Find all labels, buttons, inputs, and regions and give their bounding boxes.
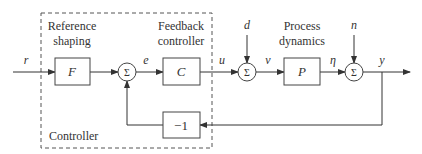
block-c-label: C <box>177 64 186 79</box>
controller-label: Controller <box>49 129 98 143</box>
reference-shaping-title-2: shaping <box>53 34 90 48</box>
signal-y-label: y <box>378 53 385 67</box>
sum-symbol-2: Σ <box>244 67 250 78</box>
signal-e-label: e <box>143 53 149 67</box>
reference-shaping-title-1: Reference <box>48 19 97 33</box>
block-p-label: P <box>297 64 306 79</box>
signal-v-label: ν <box>265 53 271 67</box>
feedback-return-line <box>127 81 163 125</box>
signal-u-label: u <box>219 53 225 67</box>
block-f-label: F <box>67 64 77 79</box>
block-diagram: F C P −1 Σ Σ Σ r e u d ν η n y Reference… <box>0 0 422 154</box>
signal-r-label: r <box>24 53 29 67</box>
process-dynamics-title-2: dynamics <box>279 34 325 48</box>
signal-d-label: d <box>244 18 251 32</box>
feedback-controller-title-2: controller <box>158 34 205 48</box>
feedback-controller-title-1: Feedback <box>158 19 204 33</box>
signal-n-label: n <box>351 18 357 32</box>
sum-symbol-1: Σ <box>124 67 130 78</box>
process-dynamics-title-1: Process <box>284 19 321 33</box>
block-neg-one-label: −1 <box>174 118 188 133</box>
signal-eta-label: η <box>330 53 336 67</box>
sum-symbol-3: Σ <box>351 67 357 78</box>
